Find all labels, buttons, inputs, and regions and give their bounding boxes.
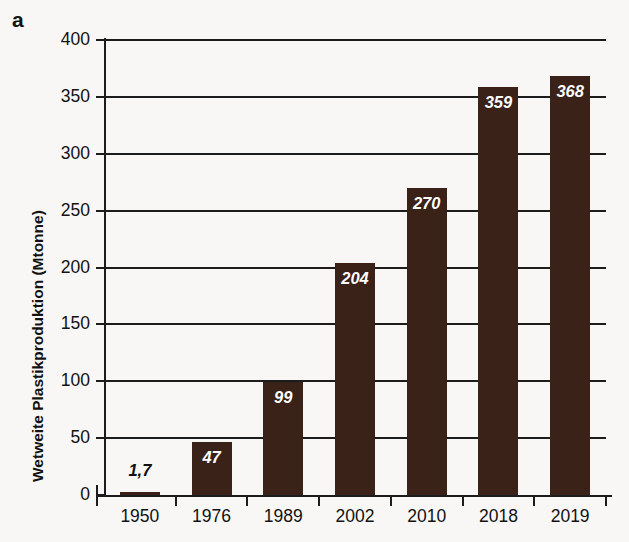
bar-value-label: 47 <box>172 448 252 467</box>
x-axis-tick <box>533 495 535 506</box>
y-axis-tick-label: 0 <box>34 484 90 505</box>
x-axis-tick-label: 2019 <box>530 506 610 527</box>
x-axis-tick <box>246 495 248 506</box>
y-axis-tick-label: 300 <box>34 143 90 164</box>
y-axis-tick-label: 250 <box>34 200 90 221</box>
bar <box>335 263 375 495</box>
bar <box>478 87 518 495</box>
bar <box>407 188 447 495</box>
bar-series: 1,74799204270359368 <box>104 40 606 495</box>
chart-figure: a Wetweite Plastikproduktion (Mtonne) 05… <box>0 0 629 542</box>
x-axis-tick <box>605 495 607 506</box>
x-axis-tick <box>462 495 464 506</box>
x-axis-tick-label: 1950 <box>100 506 180 527</box>
x-axis-tick-label: 1976 <box>172 506 252 527</box>
y-axis-tick-label: 150 <box>34 313 90 334</box>
y-axis-tick-label: 50 <box>34 427 90 448</box>
y-axis-tick-label: 350 <box>34 86 90 107</box>
x-axis-tick-label: 2018 <box>458 506 538 527</box>
bar-value-label: 270 <box>387 194 467 213</box>
x-axis-tick-label: 1989 <box>243 506 323 527</box>
y-axis-tick-label: 100 <box>34 370 90 391</box>
x-axis-tick-label: 2002 <box>315 506 395 527</box>
bar-value-label: 359 <box>458 93 538 112</box>
bar-value-label: 1,7 <box>100 461 180 480</box>
x-axis-tick-label: 2010 <box>387 506 467 527</box>
y-axis-tick-label: 400 <box>34 29 90 50</box>
y-axis-tick-label: 200 <box>34 257 90 278</box>
bar-value-label: 368 <box>530 82 610 101</box>
x-axis-tick <box>390 495 392 506</box>
x-axis-tick <box>175 495 177 506</box>
bar <box>550 76 590 495</box>
y-axis-title-wrap: Wetweite Plastikproduktion (Mtonne) <box>0 0 34 542</box>
bar-value-label: 204 <box>315 269 395 288</box>
bar-value-label: 99 <box>243 388 323 407</box>
x-axis-tick <box>318 495 320 506</box>
bar <box>120 492 160 495</box>
x-axis-tick <box>96 485 98 506</box>
